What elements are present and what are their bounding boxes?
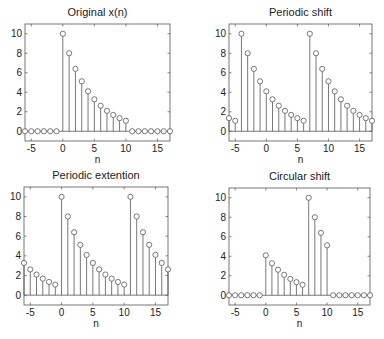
stem-marker bbox=[123, 118, 128, 123]
x-axis-label: n bbox=[93, 318, 99, 329]
stem-marker bbox=[306, 195, 311, 200]
stem-marker bbox=[312, 215, 317, 220]
x-tick-label: 5 bbox=[90, 307, 96, 318]
x-tick-label: 5 bbox=[295, 143, 301, 154]
stem-marker bbox=[140, 230, 145, 235]
stem-marker bbox=[90, 260, 95, 265]
stem-marker bbox=[122, 282, 127, 287]
stem-marker bbox=[115, 279, 120, 284]
stem-marker bbox=[167, 129, 172, 134]
stem-marker bbox=[294, 280, 299, 285]
x-tick-label: 5 bbox=[294, 307, 300, 318]
stem-marker bbox=[282, 272, 287, 277]
stem-marker bbox=[324, 243, 329, 248]
stem-marker bbox=[54, 129, 59, 134]
y-tick-label: 4 bbox=[220, 251, 226, 262]
axes-box bbox=[24, 187, 168, 305]
subplot-title: Circular shift bbox=[269, 170, 330, 182]
stem-marker bbox=[104, 108, 109, 113]
stem-marker bbox=[136, 129, 141, 134]
y-tick-label: 8 bbox=[16, 48, 22, 59]
stem-marker bbox=[148, 129, 153, 134]
x-axis-label: n bbox=[297, 318, 303, 329]
stem-marker bbox=[233, 293, 238, 298]
stem-marker bbox=[29, 129, 34, 134]
stem-marker bbox=[159, 260, 164, 265]
axes-box bbox=[25, 24, 170, 141]
stem-marker bbox=[226, 116, 231, 121]
stem-marker bbox=[338, 97, 343, 102]
y-tick-label: 10 bbox=[11, 28, 23, 39]
stem-marker bbox=[369, 118, 374, 123]
stem-marker bbox=[276, 103, 281, 108]
x-tick-label: 0 bbox=[264, 143, 270, 154]
stem-marker bbox=[295, 116, 300, 121]
stem-marker bbox=[351, 108, 356, 113]
y-tick-label: 6 bbox=[15, 231, 21, 242]
stem-marker bbox=[270, 97, 275, 102]
stem-marker bbox=[85, 89, 90, 94]
stem-marker bbox=[349, 293, 354, 298]
stem-marker bbox=[355, 293, 360, 298]
stem-marker bbox=[282, 108, 287, 113]
y-tick-label: 4 bbox=[15, 250, 21, 261]
x-axis-label: n bbox=[95, 154, 101, 165]
stem-marker bbox=[134, 214, 139, 219]
stem-marker bbox=[128, 194, 133, 199]
stem-marker bbox=[153, 252, 158, 257]
y-tick-label: 10 bbox=[215, 192, 227, 203]
y-tick-label: 0 bbox=[15, 290, 21, 301]
x-tick-label: 0 bbox=[60, 143, 66, 154]
subplot-title: Original x(n) bbox=[68, 6, 128, 18]
stem-marker bbox=[257, 79, 262, 84]
y-tick-label: 2 bbox=[15, 270, 21, 281]
stem-marker bbox=[288, 276, 293, 281]
stem-marker bbox=[41, 129, 46, 134]
subplot-periodic-shift: -50510150246810Periodic shiftn bbox=[215, 6, 375, 165]
x-tick-label: 10 bbox=[120, 143, 132, 154]
x-tick-label: -5 bbox=[27, 143, 36, 154]
stem-marker bbox=[21, 260, 26, 265]
y-tick-label: 0 bbox=[220, 126, 226, 137]
x-tick-label: 15 bbox=[150, 307, 162, 318]
stem-marker bbox=[79, 79, 84, 84]
stem-marker bbox=[289, 112, 294, 117]
subplot-periodic-extension: -50510150246810Periodic extentionn bbox=[10, 169, 171, 329]
x-tick-label: 0 bbox=[263, 307, 269, 318]
stem-marker bbox=[78, 242, 83, 247]
stem-marker bbox=[130, 129, 135, 134]
y-tick-label: 2 bbox=[220, 270, 226, 281]
x-tick-label: -5 bbox=[26, 307, 35, 318]
stem-marker bbox=[142, 129, 147, 134]
stem-marker bbox=[165, 267, 170, 272]
stem-marker bbox=[307, 31, 312, 36]
x-tick-label: 10 bbox=[322, 307, 334, 318]
figure: -50510150246810Original x(n)n -505101502… bbox=[0, 0, 384, 339]
subplot-title: Periodic shift bbox=[269, 6, 332, 18]
y-tick-label: 10 bbox=[215, 28, 227, 39]
y-tick-label: 6 bbox=[220, 231, 226, 242]
stem-marker bbox=[34, 272, 39, 277]
y-tick-label: 6 bbox=[16, 67, 22, 78]
stem-marker bbox=[233, 118, 238, 123]
stem-marker bbox=[35, 129, 40, 134]
stem-marker bbox=[357, 112, 362, 117]
subplot-circular-shift: -50510150246810Circular shiftn bbox=[215, 170, 373, 329]
stem-marker bbox=[92, 97, 97, 102]
stem-marker bbox=[300, 282, 305, 287]
stem-marker bbox=[28, 267, 33, 272]
stem-marker bbox=[361, 293, 366, 298]
stem-marker bbox=[239, 293, 244, 298]
stem-marker bbox=[367, 293, 372, 298]
stem-marker bbox=[337, 293, 342, 298]
x-tick-label: 15 bbox=[152, 143, 164, 154]
stem-marker bbox=[98, 103, 103, 108]
stem-marker bbox=[251, 66, 256, 71]
stem-marker bbox=[301, 118, 306, 123]
stem-marker bbox=[48, 129, 53, 134]
stem-marker bbox=[59, 194, 64, 199]
stem-marker bbox=[161, 129, 166, 134]
subplot-original: -50510150246810Original x(n)n bbox=[11, 6, 173, 165]
stem-marker bbox=[251, 293, 256, 298]
y-tick-label: 2 bbox=[220, 106, 226, 117]
